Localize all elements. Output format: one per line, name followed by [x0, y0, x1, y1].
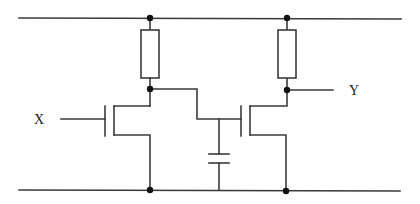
output-label-y: Y: [349, 83, 359, 98]
junction-dot-top-left: [147, 15, 153, 21]
intermediate-node-wire: [150, 89, 241, 119]
junction-dot-top-right: [284, 15, 290, 21]
junction-dot-bottom-right: [283, 188, 289, 194]
junction-dot-intermediate: [147, 86, 153, 92]
m1-source: [114, 135, 150, 190]
bottom-ground-rail: [19, 190, 400, 191]
m2-source: [250, 135, 286, 191]
m2-drain: [250, 78, 287, 106]
input-label-x: X: [34, 112, 44, 127]
junction-dot-bottom-left: [147, 187, 153, 193]
junction-dot-output: [284, 87, 290, 93]
top-supply-rail: [19, 18, 401, 19]
circuit-diagram: X Y: [0, 0, 420, 204]
resistor-r1: [141, 30, 159, 78]
resistor-r2: [278, 30, 296, 78]
